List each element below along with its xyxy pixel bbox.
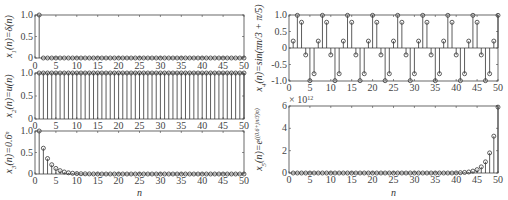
axes-box — [35, 131, 244, 174]
subplot-x5: 051015202530354045500246x5(n)=e((0.6+jπ/… — [253, 94, 503, 198]
x-tick-label: 30 — [409, 174, 419, 185]
x-tick-label: 5 — [53, 60, 58, 71]
x-tick-label: 45 — [472, 82, 482, 93]
y-tick-label: 1.0 — [21, 125, 34, 136]
x-tick-label: 20 — [368, 174, 378, 185]
y-axis-label: x1(n)=δ(n) — [3, 14, 18, 58]
y-axis-label: x5(n)=e((0.6+jπ/3)n) — [253, 108, 268, 172]
x-tick-label: 35 — [176, 120, 186, 131]
x-tick-label: 0 — [287, 174, 292, 185]
x-tick-label: 10 — [72, 175, 82, 186]
y-tick-label: -1.0 — [271, 75, 287, 86]
stem-plot-figure: 0510152025303540455000.51.0x1(n)=δ(n)051… — [0, 0, 508, 200]
y-tick-label: 0.5 — [21, 31, 34, 42]
subplot-x1: 0510152025303540455000.51.0x1(n)=δ(n) — [3, 9, 249, 71]
x-tick-label: 0 — [33, 175, 38, 186]
x-tick-label: 15 — [93, 60, 103, 71]
y-tick-label: 1.0 — [21, 9, 34, 20]
x-tick-label: 50 — [493, 174, 503, 185]
x-tick-label: 15 — [347, 82, 357, 93]
x-tick-label: 45 — [472, 174, 482, 185]
x-tick-label: 20 — [114, 175, 124, 186]
x-tick-label: 25 — [135, 60, 145, 71]
x-tick-label: 20 — [114, 120, 124, 131]
x-tick-label: 25 — [389, 82, 399, 93]
x-tick-label: 15 — [93, 175, 103, 186]
y-tick-label: 0.5 — [21, 90, 34, 101]
x-tick-label: 25 — [135, 175, 145, 186]
x-tick-label: 45 — [218, 175, 228, 186]
x-tick-label: 45 — [218, 60, 228, 71]
x-axis-label: n — [137, 187, 142, 198]
y-tick-label: 0 — [28, 168, 33, 179]
x-tick-label: 35 — [430, 82, 440, 93]
x-tick-label: 5 — [53, 120, 58, 131]
subplot-x3: 0510152025303540455000.51.0x3(n)=0.6nn — [3, 125, 249, 198]
y-scale-exponent: × 1012 — [289, 94, 313, 105]
x-tick-label: 0 — [33, 120, 38, 131]
x-tick-label: 10 — [326, 174, 336, 185]
x-tick-label: 30 — [155, 60, 165, 71]
x-tick-label: 5 — [307, 174, 312, 185]
x-tick-label: 25 — [389, 174, 399, 185]
axes-box — [289, 106, 498, 173]
x-tick-label: 15 — [93, 120, 103, 131]
x-tick-label: 5 — [53, 175, 58, 186]
y-tick-label: 0.5 — [21, 147, 34, 158]
y-tick-label: 0 — [282, 42, 287, 53]
x-tick-label: 35 — [176, 175, 186, 186]
axes-box — [35, 15, 244, 58]
x-tick-label: 35 — [430, 174, 440, 185]
x-tick-label: 50 — [239, 175, 249, 186]
x-tick-label: 5 — [307, 82, 312, 93]
y-tick-label: 0.5 — [275, 26, 288, 37]
x-tick-label: 50 — [239, 60, 249, 71]
y-tick-label: 6 — [282, 100, 287, 111]
x-tick-label: 40 — [451, 82, 461, 93]
x-axis-label: n — [391, 187, 396, 198]
subplot-x4: 05101520253035404550-1.0-0.500.51.0x4(n)… — [253, 4, 503, 93]
x-tick-label: 0 — [287, 82, 292, 93]
x-tick-label: 15 — [347, 174, 357, 185]
y-tick-label: 2 — [282, 145, 287, 156]
y-tick-label: 0 — [28, 113, 33, 124]
x-tick-label: 20 — [114, 60, 124, 71]
subplot-x2: 0510152025303540455000.51.0x2(n)=u(n) — [3, 67, 249, 131]
x-tick-label: 10 — [72, 60, 82, 71]
y-tick-label: 0 — [282, 167, 287, 178]
y-tick-label: 1.0 — [275, 9, 288, 20]
y-tick-label: 4 — [282, 122, 287, 133]
x-tick-label: 45 — [218, 120, 228, 131]
x-tick-label: 40 — [197, 175, 207, 186]
x-tick-label: 35 — [176, 60, 186, 71]
x-tick-label: 30 — [155, 175, 165, 186]
x-tick-label: 10 — [72, 120, 82, 131]
x-tick-label: 30 — [409, 82, 419, 93]
y-axis-label: x3(n)=0.6n — [3, 132, 18, 175]
x-tick-label: 30 — [155, 120, 165, 131]
x-tick-label: 40 — [197, 60, 207, 71]
x-tick-label: 10 — [326, 82, 336, 93]
x-tick-label: 20 — [368, 82, 378, 93]
x-tick-label: 40 — [197, 120, 207, 131]
x-tick-label: 0 — [33, 60, 38, 71]
x-tick-label: 40 — [451, 174, 461, 185]
y-tick-label: -0.5 — [271, 59, 287, 70]
y-axis-label: x4(n)=sin(πn/3 + π/5) — [253, 4, 268, 93]
y-tick-label: 1.0 — [21, 67, 34, 78]
y-tick-label: 0 — [28, 52, 33, 63]
x-tick-label: 50 — [239, 120, 249, 131]
x-tick-label: 50 — [493, 82, 503, 93]
x-tick-label: 25 — [135, 120, 145, 131]
y-axis-label: x2(n)=u(n) — [3, 74, 18, 119]
